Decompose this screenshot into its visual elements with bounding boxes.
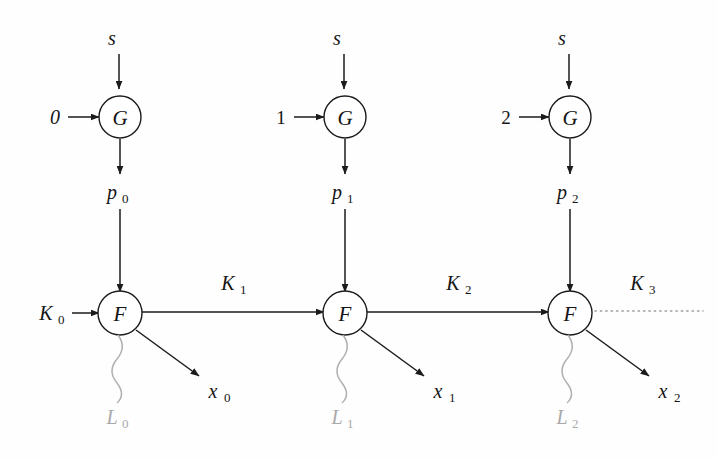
output-label-2: x [658,380,668,402]
gen-node-label-0: G [112,106,127,130]
gen-node-label-1: G [337,106,352,130]
leak-wave-0 [112,335,122,403]
key-out-label-1: K [445,272,461,294]
stage-0-group: s 0 G p 0 K 0 F L 0 x 0 [38,27,230,431]
continuation-label: K [629,272,645,294]
output-edge-0 [136,330,199,376]
seed-input-label-1: s [333,27,341,49]
output-label-1: x [433,380,443,402]
output-label-0: x [208,380,218,402]
leak-sub-2: 2 [572,416,579,431]
output-sub-1: 1 [449,390,456,405]
gen-node-label-2: G [562,106,577,130]
output-sub-2: 2 [674,390,681,405]
proc-node-label-0: F [113,302,127,326]
output-edge-2 [586,330,649,376]
leak-label-1: L [330,406,342,428]
intermediate-label-1: p [330,181,342,204]
continuation-label-sub: 3 [649,282,656,297]
stage-1-group: s 1 G p 1 K 1 F L 1 x 1 [142,27,456,431]
seed-input-label-2: s [558,27,566,49]
output-edge-1 [361,330,424,376]
index-input-label-1: 1 [276,107,286,128]
leak-label-2: L [555,406,567,428]
leak-sub-0: 0 [122,416,129,431]
index-input-label-0: 0 [50,106,60,128]
key-out-sub-1: 2 [465,282,472,297]
proc-node-label-1: F [338,302,352,326]
intermediate-sub-0: 0 [122,191,129,206]
stage-2-group: s 2 G p 2 K 2 F L 2 x 2 [367,27,681,431]
intermediate-label-0: p [105,181,117,204]
seed-input-label-0: s [108,27,116,49]
key-out-label-0: K [220,272,236,294]
intermediate-sub-1: 1 [347,191,354,206]
leak-wave-1 [337,335,347,403]
index-input-label-2: 2 [501,107,511,128]
key-in-sub-0: 0 [58,312,65,327]
continuation-group: K 3 [595,272,703,311]
key-in-label-0: K [38,302,54,324]
computation-graph-diagram: s 0 G p 0 K 0 F L 0 x 0 s [0,0,717,460]
leak-label-0: L [105,406,117,428]
intermediate-label-2: p [555,181,567,204]
intermediate-sub-2: 2 [572,191,579,206]
leak-wave-2 [562,335,572,403]
key-out-sub-0: 1 [240,282,247,297]
proc-node-label-2: F [563,302,577,326]
diagram-canvas-container: s 0 G p 0 K 0 F L 0 x 0 s [0,0,717,460]
leak-sub-1: 1 [347,416,354,431]
output-sub-0: 0 [224,390,231,405]
